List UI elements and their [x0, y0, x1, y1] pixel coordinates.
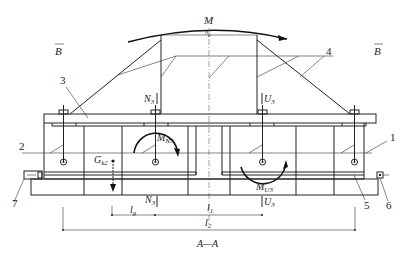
top-plate [44, 114, 376, 123]
svg-text:3: 3 [60, 74, 66, 86]
section-mark-right: B [374, 44, 383, 57]
upper-frame [70, 35, 350, 114]
force-N3-bottom: N3 [144, 194, 157, 207]
dimension-lg: lg [111, 204, 156, 217]
svg-text:Gk2: Gk2 [94, 154, 108, 167]
force-U3-top: U3 [262, 93, 275, 106]
svg-text:7: 7 [12, 197, 18, 209]
svg-text:U3: U3 [264, 93, 275, 106]
svg-text:2: 2 [19, 140, 25, 152]
svg-text:5: 5 [364, 199, 370, 211]
svg-text:MN3: MN3 [156, 132, 174, 145]
svg-text:B: B [55, 45, 62, 57]
base-plate [31, 179, 378, 195]
part-6-fitting: 6 [377, 172, 392, 211]
part-label-1: 1 [366, 131, 396, 153]
part-label-3: 3 [60, 74, 88, 118]
section-caption: A—A [196, 238, 219, 249]
svg-text:l2: l2 [205, 217, 212, 230]
part-label-4: 4 [326, 45, 332, 57]
part-7-fitting: 7 [12, 171, 42, 209]
dimension-l1: l1 [155, 202, 263, 216]
svg-text:N3: N3 [143, 93, 155, 106]
block-assembly [44, 123, 366, 195]
moment-label: M [203, 14, 214, 26]
weight-Gk2: Gk2 [94, 154, 116, 192]
part-label-5: 5 [354, 175, 370, 211]
engineering-section-diagram: M B B 3 4 N3 [0, 0, 403, 256]
svg-text:1: 1 [390, 131, 396, 143]
force-N3-top: N3 [143, 93, 157, 106]
svg-text:U3: U3 [264, 196, 275, 209]
svg-text:6: 6 [386, 199, 392, 211]
svg-text:N3: N3 [144, 194, 156, 207]
force-U3-bottom: U3 [262, 196, 275, 209]
svg-text:4: 4 [326, 45, 332, 57]
svg-text:B: B [374, 45, 381, 57]
svg-text:l1: l1 [207, 202, 213, 215]
section-mark-left: B [55, 44, 64, 57]
part-label-2: 2 [19, 140, 25, 152]
moment-MU3: MU3 [241, 160, 288, 194]
